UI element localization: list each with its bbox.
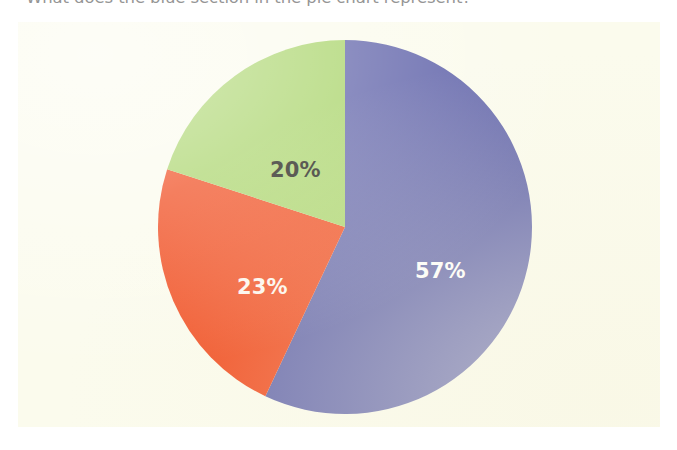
pie-chart-panel: 57% 23% 20%: [18, 22, 660, 427]
bullet-marker-icon: •: [12, 0, 21, 8]
pie-chart: 57% 23% 20%: [18, 22, 660, 427]
question-line: • What does the blue section in the pie …: [0, 0, 677, 14]
pie-chart-svg: [18, 22, 660, 427]
question-text: What does the blue section in the pie ch…: [26, 0, 471, 7]
